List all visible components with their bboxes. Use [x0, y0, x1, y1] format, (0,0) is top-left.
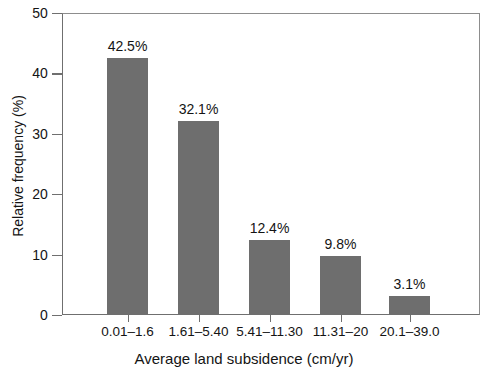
x-axis-title: Average land subsidence (cm/yr) — [0, 350, 488, 367]
y-axis-tick-label-40: 40 — [14, 65, 48, 81]
y-axis-tick-label-50: 50 — [14, 5, 48, 21]
y-axis-tick-50 — [52, 13, 62, 14]
bar-value-label-0: 42.5% — [88, 38, 168, 54]
bar-3 — [320, 256, 361, 315]
y-axis-tick-label-10: 10 — [14, 247, 48, 263]
y-axis-tick-30 — [52, 134, 62, 135]
y-axis-tick-label-0: 0 — [14, 307, 48, 323]
bar-2 — [249, 240, 290, 315]
y-axis-tick-20 — [52, 194, 62, 195]
bar-4 — [389, 296, 430, 315]
x-axis-tick-0 — [128, 315, 129, 322]
x-axis-tick-2 — [270, 315, 271, 322]
bar-1 — [178, 121, 219, 315]
bar-value-label-2: 12.4% — [230, 220, 310, 236]
y-axis-tick-0 — [52, 315, 62, 316]
x-axis-tick-1 — [199, 315, 200, 322]
x-axis-tick-3 — [341, 315, 342, 322]
bar-value-label-1: 32.1% — [159, 101, 239, 117]
y-axis-tick-40 — [52, 73, 62, 74]
bar-chart-figure: 50 40 30 20 10 0 Relative frequency (%) … — [0, 0, 488, 378]
bar-value-label-4: 3.1% — [370, 276, 450, 292]
bar-0 — [107, 58, 148, 315]
y-axis-tick-10 — [52, 255, 62, 256]
x-axis-tick-label-4: 20.1–39.0 — [355, 324, 465, 339]
bar-value-label-3: 9.8% — [301, 236, 381, 252]
x-axis-tick-4 — [410, 315, 411, 322]
y-axis-title: Relative frequency (%) — [10, 86, 26, 246]
